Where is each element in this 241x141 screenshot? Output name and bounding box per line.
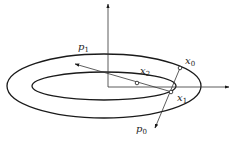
label-x1: x1 [177,93,187,105]
label-p0-sub: 0 [142,128,146,136]
point-x0 [178,66,182,70]
label-x2-sub: 2 [146,70,150,78]
point-x1 [169,90,173,94]
ray-p1-arrow [75,64,172,92]
label-p0: p0 [136,124,147,136]
outer-ellipse [7,54,201,118]
label-x1-sub: 1 [183,97,187,105]
ellipse-diagram [0,0,241,141]
label-x2: x2 [140,66,150,78]
label-x0-sub: 0 [191,60,195,68]
label-x0: x0 [185,56,195,68]
point-x2 [135,81,139,85]
inner-ellipse [32,72,176,100]
label-p1-sub: 1 [84,46,88,54]
label-p1: p1 [78,42,89,54]
